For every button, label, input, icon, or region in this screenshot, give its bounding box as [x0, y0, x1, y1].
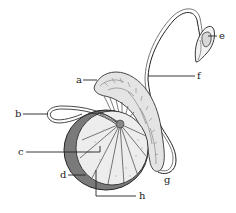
seminal-vesicle [195, 26, 214, 62]
testis [64, 110, 148, 190]
label-a: a [76, 75, 82, 85]
label-d: d [60, 170, 66, 180]
label-h: h [139, 191, 145, 201]
label-g: g [164, 175, 170, 185]
label-f: f [197, 71, 201, 81]
label-e: e [219, 31, 225, 41]
label-b: b [15, 109, 21, 119]
label-c: c [18, 147, 24, 157]
anatomy-diagram [0, 0, 236, 213]
